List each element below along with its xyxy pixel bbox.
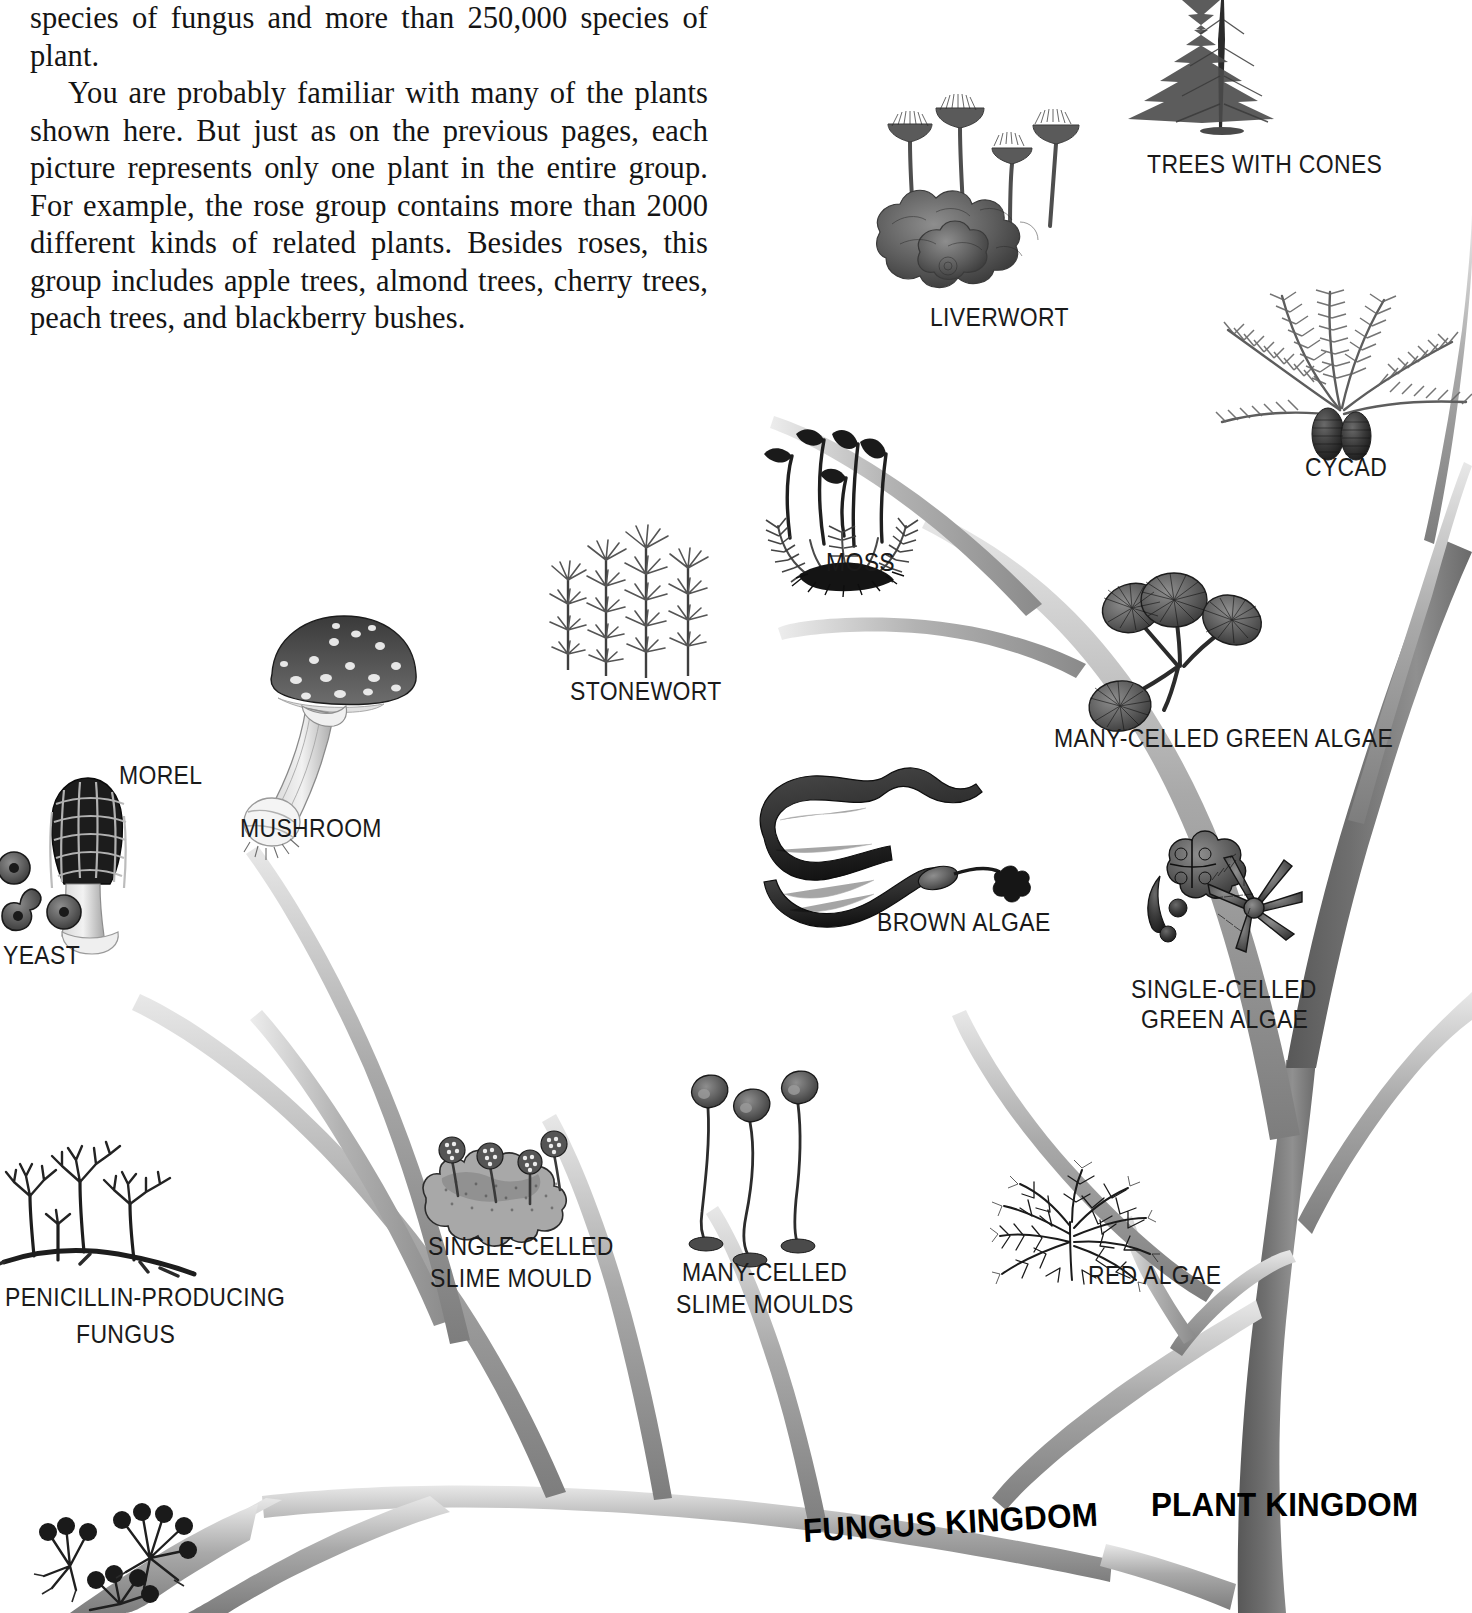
plant-trunk (1238, 1060, 1316, 1613)
label-many-celled-green-algae: MANY-CELLED GREEN ALGAE (1054, 724, 1393, 753)
single-celled-green-algae-illustration (1148, 831, 1302, 952)
branch-to-green-algae (922, 512, 1300, 1140)
conifer-illustration (1128, 0, 1274, 135)
branch-bottom-left-tail (70, 1504, 258, 1613)
paragraph-1: species of fungus and more than 250,000 … (30, 0, 708, 75)
label-plant-kingdom: PLANT KINGDOM (1151, 1486, 1418, 1524)
label-yeast: YEAST (3, 941, 80, 970)
plant-kingdom-branches (770, 214, 1472, 1613)
label-morel: MOREL (119, 761, 202, 790)
label-many-celled-slime-moulds-line1: MANY-CELLED (682, 1258, 847, 1287)
branch-green-algae-stem (778, 618, 1086, 678)
single-celled-slime-mould-illustration (423, 1131, 567, 1246)
book-page: species of fungus and more than 250,000 … (0, 0, 1472, 1613)
branch-to-brown-algae (952, 1010, 1214, 1302)
many-celled-green-algae-illustration (1086, 573, 1269, 735)
label-penicillin-fungus-line2: FUNGUS (76, 1320, 175, 1349)
yeast-illustration (0, 852, 81, 930)
label-many-celled-slime-moulds-line2: SLIME MOULDS (676, 1290, 854, 1319)
many-celled-slime-moulds-illustration (689, 1071, 818, 1267)
branch-lower-left (88, 1498, 282, 1613)
branch-yeast-stem (250, 1010, 452, 1326)
label-trees-with-cones: TREES WITH CONES (1147, 150, 1382, 179)
branch-to-mc-slime-moulds (706, 1206, 828, 1532)
branch-lower-left-2 (188, 1496, 450, 1613)
morel-illustration (51, 778, 127, 954)
label-single-celled-green-algae-line2: GREEN ALGAE (1141, 1005, 1308, 1034)
label-mushroom: MUSHROOM (240, 814, 382, 843)
liverwort-illustration (877, 94, 1079, 288)
branch-to-red-algae (992, 1300, 1262, 1510)
label-brown-algae: BROWN ALGAE (877, 908, 1051, 937)
penicillin-fungus-illustration (0, 1142, 194, 1276)
brown-algae-illustration (760, 768, 1030, 927)
label-single-celled-slime-mould-line1: SINGLE-CELLED (428, 1232, 614, 1261)
label-fungus-kingdom: FUNGUS KINGDOM (802, 1496, 1099, 1550)
branch-to-cycad (1348, 462, 1472, 824)
label-liverwort: LIVERWORT (930, 303, 1069, 332)
branch-to-sc-slime-mould (542, 1114, 672, 1500)
bottom-left-mould-illustration (34, 1503, 197, 1610)
cycad-illustration (1216, 290, 1472, 460)
fungus-plant-fork (1100, 1544, 1236, 1610)
label-single-celled-green-algae-line1: SINGLE-CELLED (1131, 975, 1317, 1004)
branch-to-trees-with-cones (1424, 214, 1472, 544)
branch-to-moss (770, 416, 1042, 616)
label-stonewort: STONEWORT (570, 677, 722, 706)
branch-right-lower (1298, 992, 1472, 1234)
stonewort-illustration (550, 525, 708, 678)
label-red-algae: RED ALGAE (1088, 1261, 1221, 1290)
label-penicillin-fungus-line1: PENICILLIN-PRODUCING (5, 1283, 285, 1312)
label-single-celled-slime-mould-line2: SLIME MOULD (430, 1264, 592, 1293)
paragraph-2: You are probably familiar with many of t… (30, 75, 708, 338)
label-cycad: CYCAD (1305, 453, 1387, 482)
label-moss: MOSS (826, 548, 895, 577)
body-text-column: species of fungus and more than 250,000 … (30, 0, 708, 338)
